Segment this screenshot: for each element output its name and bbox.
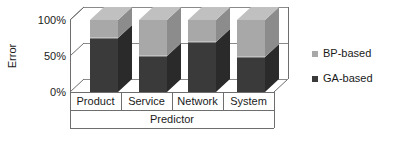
gridline-50-diagonal bbox=[70, 43, 84, 56]
y-axis-tick-labels: 100% 50% 0% bbox=[38, 14, 66, 98]
bar-product-bp-front bbox=[90, 20, 118, 38]
x-axis-title: Predictor bbox=[150, 113, 194, 125]
legend: BP-based GA-based bbox=[312, 47, 373, 84]
category-label-product: Product bbox=[77, 95, 115, 107]
gridline-0-diagonal bbox=[70, 79, 84, 92]
bar-network-bp-front bbox=[188, 20, 216, 42]
y-tick-label-100: 100% bbox=[38, 14, 66, 26]
chart-container: 100% 50% 0% Error bbox=[0, 0, 395, 144]
y-axis-title: Error bbox=[6, 43, 18, 68]
bar-service-bp-front bbox=[139, 20, 167, 56]
legend-label-bp-based: BP-based bbox=[323, 47, 371, 59]
category-label-service: Service bbox=[128, 95, 165, 107]
bar-group-service bbox=[139, 7, 181, 92]
bar-group-product bbox=[90, 7, 132, 92]
legend-swatch-ga-based bbox=[312, 76, 318, 82]
y-tick-label-50: 50% bbox=[44, 50, 66, 62]
bar-group-network bbox=[188, 7, 230, 92]
bar-group-system bbox=[237, 7, 279, 92]
bar-product-ga-front bbox=[90, 38, 118, 92]
bar-network-ga-front bbox=[188, 42, 216, 92]
bar-system-bp-front bbox=[237, 20, 265, 57]
bar-system-ga-front bbox=[237, 57, 265, 92]
category-label-system: System bbox=[230, 95, 267, 107]
category-label-network: Network bbox=[177, 95, 218, 107]
legend-swatch-bp-based bbox=[312, 51, 318, 57]
y-axis-title-group: Error bbox=[6, 43, 18, 68]
x-axis-category-row: Product Service Network System bbox=[70, 92, 274, 110]
x-axis-title-row: Predictor bbox=[70, 110, 274, 128]
legend-label-ga-based: GA-based bbox=[323, 72, 373, 84]
bar-service-ga-front bbox=[139, 56, 167, 92]
gridline-100-diagonal bbox=[70, 7, 84, 20]
stacked-bar-chart-3d: 100% 50% 0% Error bbox=[0, 0, 395, 144]
y-tick-label-0: 0% bbox=[50, 86, 66, 98]
